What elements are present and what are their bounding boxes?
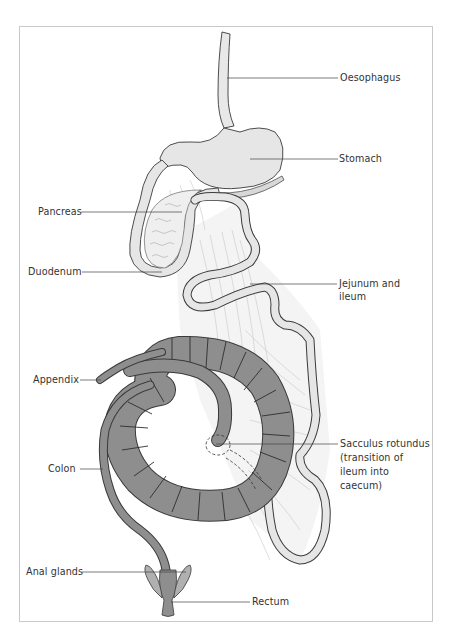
label-pancreas: Pancreas (38, 204, 82, 220)
label-duodenum: Duodenum (28, 264, 82, 280)
label-appendix: Appendix (33, 372, 79, 388)
digestive-tract-diagram: Oesophagus Stomach Pancreas Duodenum Jej… (0, 0, 452, 639)
label-sacculus-line4: caecum) (340, 478, 382, 494)
label-colon: Colon (48, 461, 76, 477)
stomach (160, 128, 283, 189)
label-anal-glands: Anal glands (26, 564, 83, 580)
label-jejunum-line2: ileum (339, 289, 366, 305)
label-stomach: Stomach (339, 151, 382, 167)
label-oesophagus: Oesophagus (340, 70, 401, 86)
label-rectum: Rectum (252, 594, 289, 610)
oesophagus (218, 32, 234, 128)
anatomy-illustration (0, 0, 452, 639)
rectum (160, 570, 177, 617)
